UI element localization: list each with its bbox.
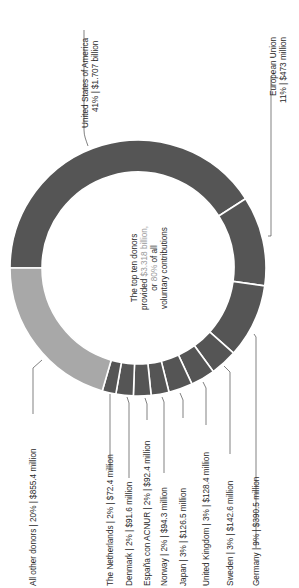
label-others: All other donors | 20% | $855.4 million xyxy=(29,448,38,586)
donut-chart: United States of America 41% | $1.707 bi… xyxy=(0,0,299,588)
donut-segment-european-union xyxy=(219,199,266,286)
center-line-3: or 80% of all xyxy=(150,245,159,291)
leader-others xyxy=(33,360,42,414)
leader-norway xyxy=(162,397,164,473)
leader-sweden xyxy=(224,366,230,454)
label-espana: España con ACNUR | 2% | $92.4 million xyxy=(143,440,152,586)
label-japan: Japan | 3% | $126.5 million xyxy=(179,488,188,586)
donut-segment-espa-a-con-acnur xyxy=(133,363,151,396)
leader-denmark xyxy=(127,397,129,478)
label-norway: Norway | 2% | $94.3 million xyxy=(160,487,169,586)
label-usa-value: 41% | $1.707 billion xyxy=(91,40,100,112)
leader-eu xyxy=(268,76,271,236)
donut-segment-all-other-donors xyxy=(10,268,111,391)
donut-segment-united-states-of-america xyxy=(10,140,246,268)
label-sweden: Sweden | 3% | $142.6 million xyxy=(226,480,235,586)
label-uk: United Kingdom | 3% | $128.4 million xyxy=(202,452,211,586)
label-eu-value: 11% | $473 million xyxy=(279,36,288,103)
label-netherlands: The Netherlands | 2% | $72.4 million xyxy=(106,454,115,586)
label-germany: Germany | 9% | $390.5 million xyxy=(252,476,261,586)
center-line-4: voluntary contributions xyxy=(160,227,169,309)
label-eu-name: European Union xyxy=(269,36,278,96)
center-summary: The top ten donors provided $3.318 billi… xyxy=(130,226,169,310)
label-denmark: Denmark | 2% | $91.6 million xyxy=(125,481,134,586)
leader-espana xyxy=(145,398,147,420)
center-line-2: provided $3.318 billion, xyxy=(140,226,149,310)
leader-japan xyxy=(180,393,183,418)
center-line-1: The top ten donors xyxy=(130,234,139,303)
label-usa-name: United States of America xyxy=(81,37,90,128)
leader-uk xyxy=(203,382,206,425)
